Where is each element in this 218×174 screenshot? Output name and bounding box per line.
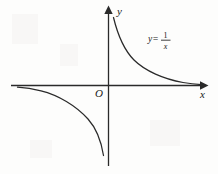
hyperbola-branch-quadrant-1 <box>114 18 202 85</box>
y-axis-label: y <box>116 5 122 17</box>
y-axis-arrowhead <box>104 6 112 15</box>
origin-label: O <box>95 87 103 99</box>
equation-numerator: 1 <box>164 31 168 40</box>
hyperbola-figure: y x O y= 1 x <box>0 0 218 174</box>
equation-annotation: y= 1 x <box>147 31 171 51</box>
graph-canvas: y x O y= 1 x <box>0 0 218 174</box>
equation-denominator: x <box>163 42 168 51</box>
hyperbola-branch-quadrant-3 <box>18 87 104 155</box>
equation-lhs: y= <box>147 34 159 44</box>
x-axis-label: x <box>199 88 205 100</box>
